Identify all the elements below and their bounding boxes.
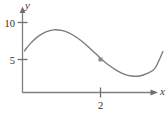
graph-figure: y x 10 5 2 bbox=[0, 0, 166, 115]
arrow-right-icon bbox=[151, 90, 159, 96]
y-tick-label-10: 10 bbox=[5, 18, 16, 29]
tick-marks-group bbox=[18, 23, 101, 98]
y-axis-label: y bbox=[24, 0, 30, 11]
y-tick-label-5: 5 bbox=[10, 55, 15, 66]
x-tick-label-2: 2 bbox=[98, 100, 103, 111]
axes-group bbox=[20, 7, 158, 96]
x-axis-label: x bbox=[159, 85, 165, 97]
curve-path bbox=[24, 30, 162, 77]
point-on-curve-marker bbox=[99, 58, 103, 62]
plot-canvas: y x 10 5 2 bbox=[0, 0, 166, 115]
